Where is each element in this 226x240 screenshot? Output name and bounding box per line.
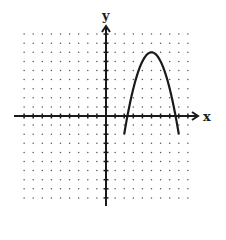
grid-dot [178,88,180,90]
grid-dot [78,170,80,172]
grid-dot [51,33,53,35]
grid-dot [60,61,62,63]
grid-dot [133,79,135,81]
grid-dot [69,61,71,63]
grid-dot [169,197,171,199]
grid-dot [151,106,153,108]
grid-dot [42,88,44,90]
grid-dot [42,170,44,172]
grid-dot [114,124,116,126]
grid-dot [60,133,62,135]
grid-dot [160,97,162,99]
grid-dot [123,70,125,72]
grid-dot [151,133,153,135]
grid-dot [151,170,153,172]
grid-dot [187,133,189,135]
grid-dot [32,143,34,145]
grid-dot [51,143,53,145]
grid-dot [32,106,34,108]
grid-dot [169,70,171,72]
grid-dot [133,143,135,145]
grid-dot [32,70,34,72]
grid-dot [32,33,34,35]
grid-dot [123,79,125,81]
grid-dot [42,106,44,108]
grid-dot [96,106,98,108]
grid-dot [133,170,135,172]
grid-dot [42,152,44,154]
grid-dot [160,188,162,190]
grid-dot [160,161,162,163]
grid-dot [23,197,25,199]
grid-dot [142,52,144,54]
grid-dot [42,33,44,35]
grid-dot [160,33,162,35]
grid-dot [178,52,180,54]
grid-dot [178,42,180,44]
grid-dot [123,161,125,163]
grid-dot [23,133,25,135]
grid-dot [187,161,189,163]
grid-dot [87,179,89,181]
grid-dot [151,61,153,63]
grid-dot [142,188,144,190]
grid-dot [60,161,62,163]
grid-dot [133,124,135,126]
grid-dot [87,52,89,54]
grid-dot [60,179,62,181]
grid-dot [69,133,71,135]
grid-dot [96,42,98,44]
grid-dot [187,79,189,81]
grid-dot [51,79,53,81]
grid-dot [23,161,25,163]
grid-dot [42,42,44,44]
grid-dot [42,143,44,145]
grid-dot [142,133,144,135]
grid-dot [133,197,135,199]
grid-dot [69,52,71,54]
grid-dot [187,97,189,99]
grid-dot [187,170,189,172]
grid-dot [60,70,62,72]
grid-dot [123,52,125,54]
grid-dot [178,97,180,99]
grid-dot [42,197,44,199]
grid-dot [142,88,144,90]
grid-dot [169,52,171,54]
grid-dot [60,170,62,172]
grid-dot [133,179,135,181]
grid-dot [142,152,144,154]
grid-dot [133,33,135,35]
grid-dot [133,97,135,99]
grid-dot [78,188,80,190]
grid-dot [51,133,53,135]
grid-dot [114,197,116,199]
grid-dot [32,161,34,163]
grid-dot [160,79,162,81]
grid-dot [114,161,116,163]
grid-dot [96,70,98,72]
grid-dot [169,124,171,126]
grid-dot [87,124,89,126]
grid-dot [123,61,125,63]
grid-dot [169,143,171,145]
grid-dot [87,33,89,35]
grid-dot [96,197,98,199]
grid-dot [114,88,116,90]
grid-dot [69,188,71,190]
grid-dot [69,161,71,163]
grid-dot [169,170,171,172]
grid-dot [160,124,162,126]
grid-dot [23,88,25,90]
grid-dot [123,33,125,35]
grid-dot [42,97,44,99]
grid-dot [69,197,71,199]
grid-dot [51,42,53,44]
grid-dot [96,161,98,163]
grid-dot [51,161,53,163]
grid-dot [133,152,135,154]
grid-dot [178,188,180,190]
grid-dot [23,97,25,99]
grid-dot [114,97,116,99]
grid-dot [78,79,80,81]
